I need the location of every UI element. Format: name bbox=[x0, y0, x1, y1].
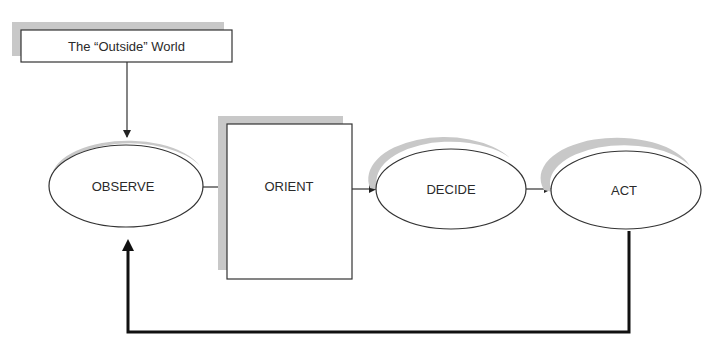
outside-world-node: The “Outside” World bbox=[12, 22, 232, 62]
orient-node: ORIENT bbox=[218, 116, 352, 279]
ooda-diagram: The “Outside” World OBSERVE ORIENT DECID… bbox=[0, 0, 721, 349]
edge-act-to-observe-feedback bbox=[128, 231, 629, 332]
decide-node: DECIDE bbox=[368, 137, 526, 229]
outside-world-label: The “Outside” World bbox=[68, 39, 185, 54]
act-node: ACT bbox=[541, 138, 701, 229]
orient-label: ORIENT bbox=[264, 179, 313, 194]
act-label: ACT bbox=[611, 183, 637, 198]
observe-label: OBSERVE bbox=[92, 179, 155, 194]
decide-label: DECIDE bbox=[426, 182, 475, 197]
orient-box bbox=[227, 124, 352, 279]
observe-node: OBSERVE bbox=[49, 141, 203, 227]
